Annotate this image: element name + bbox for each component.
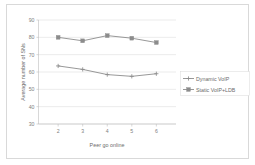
- x-tick-label: 5: [130, 128, 133, 134]
- data-point: [154, 72, 158, 76]
- data-point: [56, 35, 60, 39]
- data-point: [56, 64, 60, 68]
- legend-label: Static VoIP+LDB: [196, 87, 236, 93]
- y-tick-label: 50: [29, 86, 35, 92]
- data-point: [154, 41, 158, 45]
- x-tick-label: 3: [81, 128, 84, 134]
- data-point: [105, 73, 109, 77]
- legend-marker: [187, 88, 191, 92]
- legend: Dynamic VoIPStatic VoIP+LDB: [181, 72, 250, 96]
- x-axis-title: Peer go online: [90, 142, 125, 148]
- y-tick-label: 60: [29, 69, 35, 75]
- y-tick-label: 80: [29, 34, 35, 40]
- y-axis-title: Average number of SNs: [20, 43, 26, 101]
- y-tick-label: 30: [29, 121, 35, 127]
- data-point: [81, 67, 85, 71]
- y-tick-label: 90: [29, 17, 35, 23]
- x-tick-label: 2: [57, 128, 60, 134]
- legend-label: Dynamic VoIP: [196, 76, 230, 82]
- series-layer: [56, 34, 158, 79]
- series-2: [56, 34, 158, 45]
- data-point: [130, 74, 134, 78]
- line-chart: 30405060708090 23456 Average number of S…: [0, 0, 255, 165]
- y-axis-ticks: 30405060708090: [29, 17, 39, 127]
- data-point: [105, 34, 109, 38]
- x-tick-label: 4: [106, 128, 109, 134]
- y-tick-label: 40: [29, 104, 35, 110]
- data-point: [81, 39, 85, 43]
- x-axis-ticks: 23456: [57, 124, 158, 134]
- y-tick-label: 70: [29, 52, 35, 58]
- figure-container: 30405060708090 23456 Average number of S…: [0, 0, 255, 165]
- series-1: [56, 64, 158, 79]
- chart-area: 30405060708090 23456 Average number of S…: [0, 0, 255, 165]
- x-tick-label: 6: [155, 128, 158, 134]
- data-point: [130, 36, 134, 40]
